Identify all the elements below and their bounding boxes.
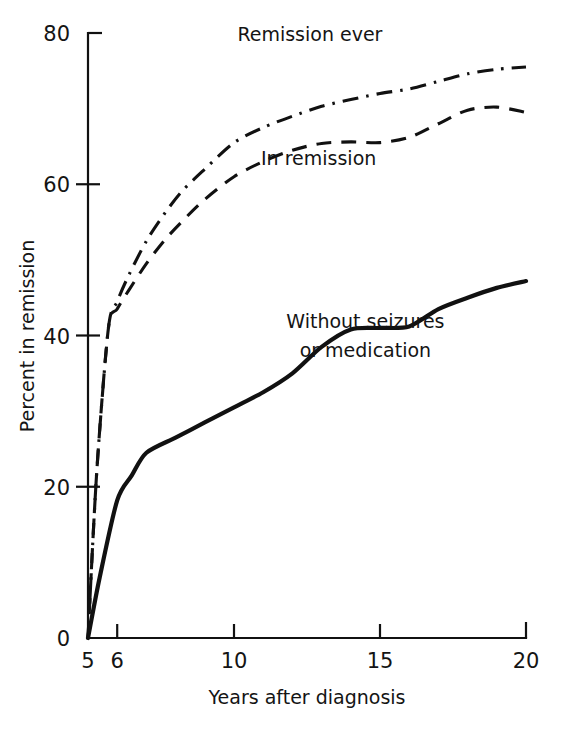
x-axis-title: Years after diagnosis — [208, 686, 406, 708]
y-axis-title: Percent in remission — [16, 240, 38, 433]
x-tick-label: 20 — [513, 649, 540, 673]
x-tick-label: 6 — [111, 649, 124, 673]
series-line-without-seizures-or-medication — [88, 281, 526, 638]
series-annotation-label: or medication — [300, 339, 432, 361]
x-axis-ticks — [117, 622, 526, 638]
y-tick-label: 40 — [43, 325, 70, 349]
y-tick-label: 0 — [57, 627, 70, 651]
annotations-group: Remission everIn remissionWithout seizur… — [237, 23, 444, 361]
x-tick-label: 5 — [81, 649, 94, 673]
axes-group — [76, 33, 526, 638]
series-annotation-label: In remission — [261, 147, 376, 169]
chart-figure: 020406080 56101520 Remission everIn remi… — [0, 0, 561, 732]
series-annotation-label: Remission ever — [237, 23, 382, 45]
y-tick-label: 80 — [43, 22, 70, 46]
series-annotation-label: Without seizures — [286, 310, 444, 332]
line-chart-svg: 020406080 56101520 Remission everIn remi… — [0, 0, 561, 732]
series-line-in-remission — [88, 107, 526, 638]
y-tick-label: 60 — [43, 173, 70, 197]
x-tick-label: 10 — [221, 649, 248, 673]
y-tick-label: 20 — [43, 476, 70, 500]
y-tick-labels: 020406080 — [43, 22, 70, 651]
x-tick-labels: 56101520 — [81, 649, 539, 673]
x-tick-label: 15 — [367, 649, 394, 673]
